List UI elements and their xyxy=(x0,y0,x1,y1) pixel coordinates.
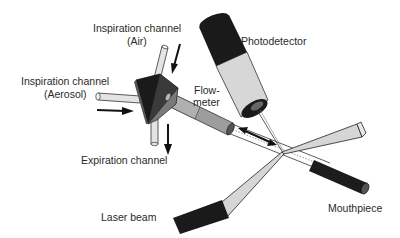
inspiration-aerosol-tube xyxy=(96,93,140,103)
label-flowmeter-line2: meter xyxy=(193,96,220,108)
label-inspiration-aerosol-line1: Inspiration channel xyxy=(21,75,109,87)
label-photodetector: Photodetector xyxy=(241,35,307,47)
label-inspiration-air-line2: (Air) xyxy=(127,35,147,47)
label-inspiration-aerosol-line2: (Aerosol) xyxy=(44,88,87,100)
label-inspiration-air-line1: Inspiration channel xyxy=(93,22,181,34)
diagram-canvas: Inspiration channel (Air) Inspiration ch… xyxy=(0,0,400,238)
expiration-outlet-arrow-icon xyxy=(164,124,172,155)
valve-block xyxy=(134,74,178,124)
mouthpiece-shape xyxy=(309,160,370,195)
label-flowmeter-line1: Flow- xyxy=(194,84,220,96)
air-inlet-arrow-icon xyxy=(171,44,180,74)
label-laser-beam: Laser beam xyxy=(101,211,157,223)
label-expiration-channel: Expiration channel xyxy=(81,154,167,166)
label-mouthpiece: Mouthpiece xyxy=(328,202,382,214)
photodetector-shape xyxy=(197,10,284,153)
aerosol-inlet-arrow-icon xyxy=(97,107,134,115)
